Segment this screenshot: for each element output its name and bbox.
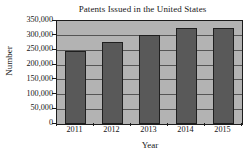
bar-group <box>168 21 205 124</box>
x-axis-tick-label: 2011 <box>56 125 93 135</box>
bar <box>176 28 197 124</box>
bar-group <box>131 21 168 124</box>
bar-group <box>205 21 242 124</box>
y-axis-tick-labels: 050,000100,000150,000200,000250,000300,0… <box>0 20 53 123</box>
bar <box>102 42 123 124</box>
y-axis-tick-label: 50,000 <box>1 103 53 112</box>
x-axis-tick-label: 2012 <box>93 125 130 135</box>
bar-chart-figure: Patents Issued in the United States Numb… <box>0 0 250 158</box>
x-axis-tick-label: 2014 <box>167 125 204 135</box>
y-axis-tick-label: 350,000 <box>1 15 53 24</box>
y-axis-tick-label: 250,000 <box>1 44 53 53</box>
x-axis-tick-label: 2013 <box>130 125 167 135</box>
y-axis-tick-label: 0 <box>1 118 53 127</box>
bars-series <box>57 21 242 124</box>
plot-area <box>56 20 243 125</box>
bar <box>65 51 86 124</box>
y-axis-tick-label: 100,000 <box>1 89 53 98</box>
x-axis-title: Year <box>55 140 245 150</box>
y-axis-tick-label: 200,000 <box>1 59 53 68</box>
x-axis-tick-mark <box>241 123 242 126</box>
y-axis-tick-label: 150,000 <box>1 74 53 83</box>
bar-group <box>57 21 94 124</box>
y-axis-tick-label: 300,000 <box>1 30 53 39</box>
bar-group <box>94 21 131 124</box>
bar <box>139 35 160 124</box>
x-axis-tick-labels: 20112012201320142015 <box>56 125 241 137</box>
bar <box>213 28 234 124</box>
chart-title: Patents Issued in the United States <box>40 4 245 15</box>
x-axis-tick-label: 2015 <box>204 125 241 135</box>
